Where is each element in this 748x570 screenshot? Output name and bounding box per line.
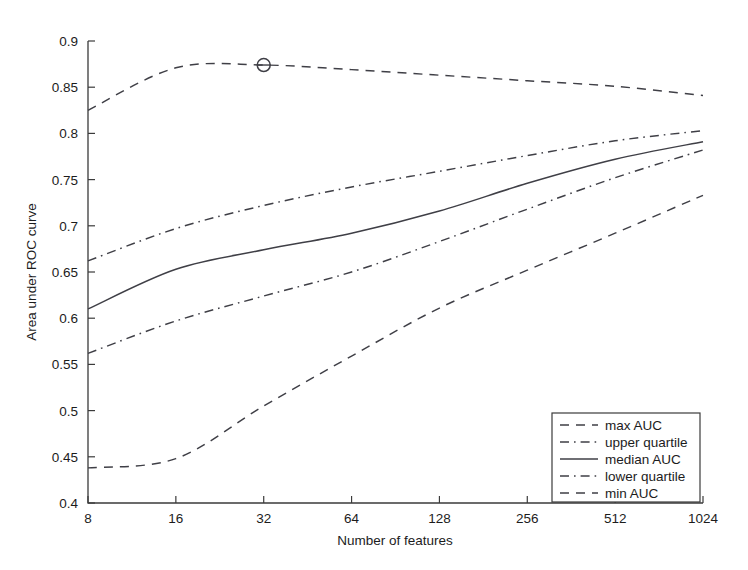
x-axis-title: Number of features (337, 533, 453, 548)
y-axis-title: Area under ROC curve (24, 203, 39, 340)
chart-canvas: 0.40.450.50.550.60.650.70.750.80.850.9 8… (0, 0, 748, 570)
y-tick-label: 0.8 (59, 126, 78, 141)
y-tick-label: 0.65 (52, 265, 78, 280)
legend-label-lower-quartile[interactable]: lower quartile (605, 469, 685, 484)
x-tick-label: 8 (84, 511, 92, 526)
y-tick-label: 0.85 (52, 80, 78, 95)
legend-label-max-auc[interactable]: max AUC (605, 418, 662, 433)
y-tick-label: 0.75 (52, 173, 78, 188)
y-tick-label: 0.5 (59, 404, 78, 419)
x-tick-label: 64 (344, 511, 360, 526)
x-tick-label: 128 (428, 511, 451, 526)
y-tick-label: 0.55 (52, 357, 78, 372)
x-tick-label: 256 (516, 511, 539, 526)
roc-auc-figure: 0.40.450.50.550.60.650.70.750.80.850.9 8… (0, 0, 748, 570)
y-tick-label: 0.45 (52, 450, 78, 465)
y-tick-label: 0.6 (59, 311, 78, 326)
legend-label-upper-quartile[interactable]: upper quartile (605, 435, 688, 450)
legend-label-min-auc[interactable]: min AUC (605, 486, 659, 501)
y-tick-label: 0.4 (59, 496, 78, 511)
y-tick-label: 0.7 (59, 219, 78, 234)
x-tick-label: 512 (604, 511, 627, 526)
x-tick-label: 32 (256, 511, 271, 526)
x-tick-label: 16 (168, 511, 183, 526)
chart-legend[interactable]: max AUCupper quartilemedian AUClower qua… (552, 413, 700, 502)
x-tick-label: 1024 (688, 511, 719, 526)
y-tick-label: 0.9 (59, 34, 78, 49)
legend-label-median-auc[interactable]: median AUC (605, 452, 681, 467)
